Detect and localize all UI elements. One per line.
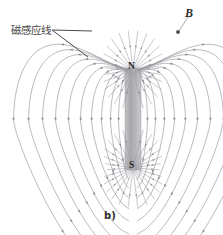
north-pole-label: N: [128, 61, 135, 71]
field-line-arrow: [140, 47, 142, 50]
field-line-arrow: [70, 48, 73, 51]
field-line-arrow: [124, 47, 126, 50]
field-line-arrow: [157, 70, 160, 73]
field-line-arrow: [149, 76, 152, 78]
field-line-arrow: [41, 118, 44, 121]
field-line: [92, 69, 129, 209]
field-line-arrow: [111, 159, 114, 161]
field-line-arrow: [184, 118, 187, 121]
field-line-arrow: [151, 164, 154, 166]
field-line-arrow: [143, 89, 145, 92]
field-line-arrow: [112, 153, 115, 155]
field-line-arrow: [144, 50, 146, 53]
field-line-arrow: [112, 164, 115, 166]
field-line-arrow: [151, 153, 154, 155]
field-line-arrow: [109, 118, 112, 121]
field-line-arrow: [149, 60, 152, 62]
magnetic-field-figure: 磁感应线 B N S b): [0, 0, 223, 235]
field-line-arrow: [85, 58, 88, 61]
field-line-arrow: [113, 168, 116, 170]
field-line-arrow: [116, 68, 119, 70]
b-vector-label: B: [185, 6, 193, 21]
field-line-arrow: [27, 118, 30, 121]
field-line-arrow: [61, 230, 64, 233]
field-line-arrow: [178, 58, 181, 61]
field-line-arrow: [147, 68, 150, 70]
field-line-arrow: [93, 62, 96, 64]
field-line-arrow: [121, 89, 123, 92]
field-line: [137, 69, 174, 209]
field-line-arrow: [196, 118, 199, 121]
field-line-arrow: [193, 48, 196, 51]
leader-line: [52, 30, 88, 57]
field-line-arrow: [146, 118, 149, 121]
field-line-arrow: [12, 118, 15, 121]
field-line-arrow: [163, 118, 166, 121]
south-pole-label: S: [129, 160, 134, 170]
field-line: [56, 59, 129, 235]
field-line-arrow: [112, 170, 114, 173]
field-line-arrow: [79, 118, 82, 121]
field-line-arrow: [54, 118, 57, 121]
field-line-arrow: [152, 159, 155, 161]
leader-line: [52, 30, 92, 31]
field-line-arrow: [61, 43, 64, 46]
field-line-arrow: [222, 118, 223, 121]
field-line-arrow: [100, 118, 103, 121]
field-line-arrow: [119, 50, 121, 53]
field-line-arrow: [173, 118, 176, 121]
field-line-arrow: [170, 62, 173, 64]
field-line: [128, 170, 133, 208]
field-line-arrow: [154, 118, 157, 121]
field-lines-label: 磁感应线: [11, 22, 51, 37]
field-line: [14, 44, 129, 235]
field-line-arrow: [114, 60, 117, 62]
field-point-marker: [176, 30, 179, 33]
field-line-arrow: [90, 118, 93, 121]
field-line-arrow: [152, 170, 154, 173]
field-line-arrow: [202, 43, 205, 46]
field-line-arrow: [117, 118, 120, 121]
field-line-arrow: [202, 230, 205, 233]
field-line: [137, 59, 210, 235]
field-line-arrow: [114, 76, 117, 78]
field-line-arrow: [106, 177, 109, 180]
figure-caption: b): [104, 210, 116, 221]
field-line-arrow: [67, 118, 70, 121]
field-line-arrow: [209, 118, 212, 121]
field-line-arrow: [106, 70, 109, 73]
field-line-arrow: [150, 168, 153, 170]
field-line-arrow: [158, 177, 161, 180]
field-line: [133, 170, 138, 208]
